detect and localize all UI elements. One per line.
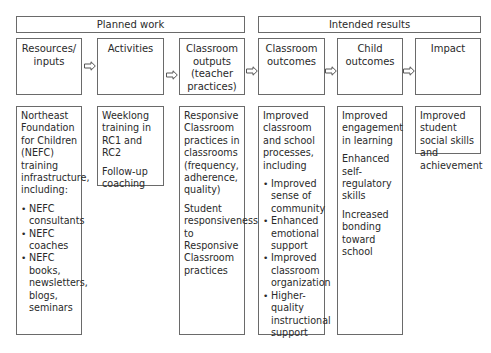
- list-item: NEFC books, newsletters, blogs, seminars: [21, 252, 78, 314]
- list-item: Enhanced emotional support: [263, 215, 321, 252]
- list-item: NEFC consultants: [21, 203, 78, 228]
- detail-classroom-outcomes: Improved classroom and school processes,…: [258, 106, 325, 335]
- right-arrow-icon: [84, 61, 96, 71]
- right-arrow-icon: [246, 66, 258, 76]
- header-classroom-outcomes: Classroom outcomes: [258, 38, 325, 95]
- detail-bullet-list: NEFC consultants NEFC coaches NEFC books…: [21, 203, 78, 315]
- detail-classroom-outputs: Responsive Classroom practices in classr…: [179, 106, 245, 335]
- group-intended-results: Intended results: [258, 16, 481, 33]
- right-arrow-icon: [166, 70, 178, 80]
- list-item: NEFC coaches: [21, 228, 78, 253]
- header-resources-inputs: Resources/ inputs: [16, 38, 82, 95]
- detail-intro: Improved classroom and school processes,…: [263, 110, 321, 172]
- right-arrow-icon: [403, 66, 415, 76]
- right-arrow-icon: [325, 66, 337, 76]
- detail-paragraph: Student responsiveness to Responsive Cla…: [184, 203, 241, 277]
- header-label: Activities: [108, 43, 154, 54]
- group-planned-work: Planned work: [16, 16, 245, 33]
- detail-impact: Improved student social skills and achie…: [415, 106, 481, 154]
- header-label: Classroom outcomes: [265, 43, 317, 67]
- header-child-outcomes: Child outcomes: [337, 38, 403, 95]
- group-label: Intended results: [329, 19, 410, 30]
- header-label: Classroom outputs (teacher practices): [186, 43, 238, 92]
- list-item: Improved sense of community: [263, 178, 321, 215]
- detail-paragraph: Increased bonding toward school: [342, 209, 399, 259]
- detail-bullet-list: Improved sense of community Enhanced emo…: [263, 178, 321, 339]
- header-label: Child outcomes: [345, 43, 394, 67]
- detail-paragraph: Enhanced self-regulatory skills: [342, 153, 399, 203]
- header-classroom-outputs: Classroom outputs (teacher practices): [179, 38, 245, 95]
- detail-paragraph: Improved student social skills and achie…: [420, 110, 477, 172]
- list-item: Improved classroom organization: [263, 252, 321, 289]
- detail-paragraph: Follow-up coaching: [102, 166, 160, 191]
- header-label: Resources/ inputs: [22, 43, 76, 67]
- list-item: Higher-quality instructional support: [263, 290, 321, 340]
- group-label: Planned work: [97, 19, 165, 30]
- detail-child-outcomes: Improved engagement in learning Enhanced…: [337, 106, 403, 335]
- detail-paragraph: Weeklong training in RC1 and RC2: [102, 110, 160, 160]
- detail-intro: Northeast Foundation for Children (NEFC)…: [21, 110, 78, 197]
- header-label: Impact: [431, 43, 466, 54]
- detail-paragraph: Responsive Classroom practices in classr…: [184, 110, 241, 197]
- header-impact: Impact: [415, 38, 481, 95]
- header-activities: Activities: [97, 38, 164, 95]
- detail-activities: Weeklong training in RC1 and RC2 Follow-…: [97, 106, 164, 186]
- detail-paragraph: Improved engagement in learning: [342, 110, 399, 147]
- detail-resources: Northeast Foundation for Children (NEFC)…: [16, 106, 82, 335]
